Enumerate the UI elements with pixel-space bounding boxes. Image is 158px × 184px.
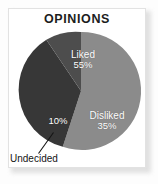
pie-label-liked: Liked 55% <box>56 49 110 71</box>
pie-label-disliked-value: 35% <box>79 121 135 132</box>
pie-callout-label-undecided: Undecided <box>10 153 58 164</box>
screenshot-root: OPINIONS Liked 55% Disliked 35% 10% Unde… <box>0 0 158 184</box>
pie-label-disliked: Disliked 35% <box>79 110 135 132</box>
pie-label-undecided-value: 10% <box>40 116 76 127</box>
pie-label-liked-value: 55% <box>56 60 110 71</box>
pie-label-undecided-value-group: 10% <box>40 116 76 127</box>
